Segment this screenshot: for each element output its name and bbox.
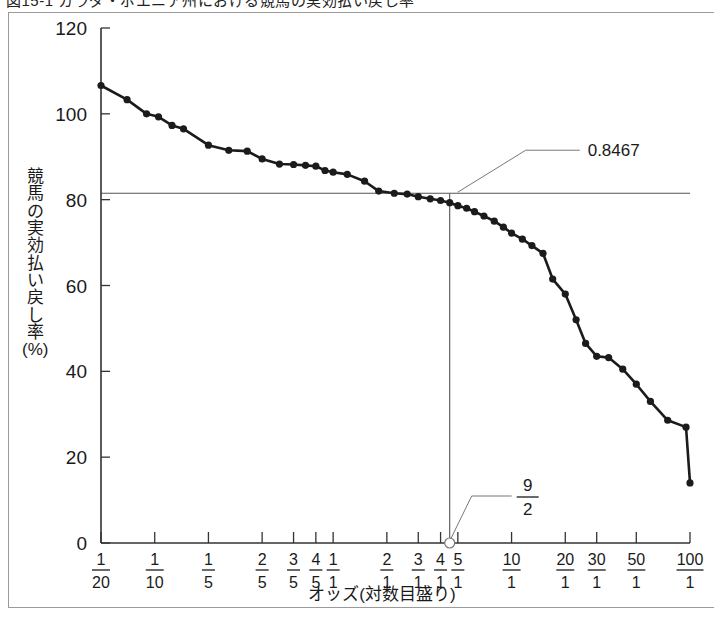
y-axis-label-group: 020406080100120 (55, 18, 87, 554)
data-point (361, 178, 368, 185)
data-point (682, 424, 689, 431)
data-point (647, 398, 654, 405)
x-tick-numerator-2-5: 2 (258, 551, 267, 568)
x-tick-denominator-10-1: 1 (507, 574, 516, 591)
x-tick-numerator-50-1: 50 (627, 551, 645, 568)
data-point (330, 169, 337, 176)
x-tick-denominator-1-10: 10 (146, 574, 164, 591)
x-tick-denominator-30-1: 1 (592, 574, 601, 591)
annotation-group: 0.846792 (445, 141, 640, 548)
x-axis-tick-group (101, 532, 690, 543)
reference-line-group (101, 193, 690, 543)
data-point (302, 162, 309, 169)
data-point (480, 212, 487, 219)
odds-leader-line (451, 496, 512, 539)
data-point (508, 230, 515, 237)
x-tick-denominator-50-1: 1 (632, 574, 641, 591)
data-point (143, 110, 150, 117)
data-point (290, 161, 297, 168)
data-point (500, 224, 507, 231)
y-axis-tick-group (101, 28, 110, 543)
data-point (276, 160, 283, 167)
data-point (471, 208, 478, 215)
x-tick-denominator-1-20: 20 (92, 574, 110, 591)
data-point (633, 381, 640, 388)
x-tick-numerator-30-1: 30 (588, 551, 606, 568)
chart-plot-area: 0.846792 1201101525354511213141511012013… (0, 0, 715, 624)
data-point (123, 96, 130, 103)
data-point (605, 354, 612, 361)
data-point (404, 190, 411, 197)
data-point (463, 205, 470, 212)
data-point (415, 193, 422, 200)
data-point (375, 187, 382, 194)
x-axis-title: オッズ(対数目盛り) (308, 585, 455, 604)
data-point (528, 242, 535, 249)
x-tick-denominator-100-1: 1 (686, 574, 695, 591)
x-tick-numerator-5-1: 5 (453, 551, 462, 568)
data-point (519, 236, 526, 243)
data-point (454, 202, 461, 209)
y-tick-label-0: 0 (76, 533, 87, 554)
data-point (562, 290, 569, 297)
x-tick-numerator-4-1: 4 (436, 551, 445, 568)
odds-annotation-numerator: 9 (523, 476, 532, 495)
data-point (427, 195, 434, 202)
odds-axis-marker (445, 538, 455, 548)
chart-svg: 0.846792 1201101525354511213141511012013… (0, 0, 715, 624)
x-tick-numerator-20-1: 20 (556, 551, 574, 568)
x-tick-numerator-100-1: 100 (677, 551, 704, 568)
data-point (446, 199, 453, 206)
payout-leader-line (458, 150, 580, 192)
x-tick-numerator-2-1: 2 (382, 551, 391, 568)
data-point (155, 113, 162, 120)
y-tick-label-80: 80 (66, 190, 87, 211)
x-tick-denominator-20-1: 1 (561, 574, 570, 591)
data-point (391, 190, 398, 197)
data-point (312, 163, 319, 170)
data-point (549, 275, 556, 282)
y-tick-label-100: 100 (55, 104, 87, 125)
x-tick-denominator-3-5: 5 (289, 574, 298, 591)
odds-annotation-denominator: 2 (523, 500, 532, 519)
x-tick-numerator-3-5: 3 (289, 551, 298, 568)
x-tick-numerator-1-1: 1 (329, 551, 338, 568)
data-point (573, 316, 580, 323)
payout-ratio-annotation: 0.8467 (588, 141, 640, 160)
x-tick-denominator-2-5: 5 (258, 574, 267, 591)
data-point (619, 366, 626, 373)
data-point (259, 155, 266, 162)
data-point (225, 147, 232, 154)
data-point (582, 340, 589, 347)
data-point (686, 479, 693, 486)
x-tick-numerator-3-1: 3 (414, 551, 423, 568)
x-tick-numerator-1-10: 1 (150, 551, 159, 568)
data-point (205, 142, 212, 149)
data-point (539, 250, 546, 257)
data-point (593, 353, 600, 360)
data-point (168, 122, 175, 129)
x-tick-denominator-1-5: 5 (204, 574, 213, 591)
data-point (180, 125, 187, 132)
y-tick-label-40: 40 (66, 361, 87, 382)
data-point (321, 167, 328, 174)
data-point (344, 171, 351, 178)
x-tick-numerator-1-5: 1 (204, 551, 213, 568)
x-tick-numerator-1-20: 1 (97, 551, 106, 568)
data-point (491, 218, 498, 225)
x-tick-numerator-10-1: 10 (503, 551, 521, 568)
data-point (244, 148, 251, 155)
y-tick-label-120: 120 (55, 18, 87, 39)
y-tick-label-60: 60 (66, 276, 87, 297)
x-tick-numerator-4-5: 4 (311, 551, 320, 568)
data-point (437, 197, 444, 204)
y-tick-label-20: 20 (66, 447, 87, 468)
data-point (97, 82, 104, 89)
data-point (664, 417, 671, 424)
